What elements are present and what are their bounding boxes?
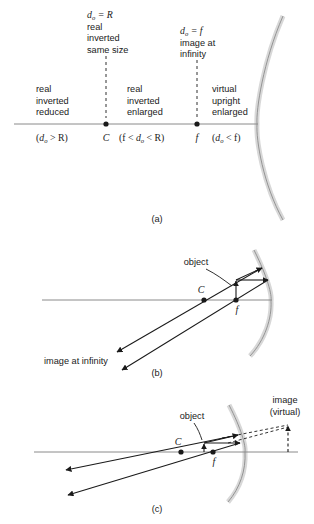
marker-center-of-curvature-a (103, 121, 108, 126)
callout-line-image-at-a: image at (180, 38, 216, 48)
region2-line-real: real (127, 84, 142, 94)
label-center-of-curvature-a: C (103, 132, 110, 143)
marker-focal-point-a (194, 121, 199, 126)
label-center-of-curvature-c: C (175, 436, 182, 447)
region3-line-upright: upright (212, 96, 241, 106)
panel-caption-b: (b) (151, 368, 162, 378)
panel-caption-c: (c) (152, 504, 163, 514)
region1-line-inverted: inverted (36, 96, 69, 106)
figure-background (0, 0, 314, 524)
callout-line-infinity-a: infinity (180, 49, 206, 59)
region2-line-inverted: inverted (127, 96, 160, 106)
marker-center-of-curvature-c (178, 449, 183, 454)
callout-condition-do-equals-r: do = R (87, 9, 113, 21)
label-center-of-curvature-b: C (198, 284, 205, 295)
region1-line-reduced: reduced (36, 107, 69, 117)
object-label-c: object (180, 411, 205, 421)
callout-line-real-a: real (87, 22, 102, 32)
region3-line-enlarged: enlarged (212, 107, 248, 117)
region1-line-real: real (36, 84, 51, 94)
marker-focal-point-b (233, 297, 238, 302)
callout-line-inverted-a: inverted (87, 33, 120, 43)
callout-line-same-size-a: same size (87, 45, 128, 55)
object-label-b: object (184, 257, 209, 267)
marker-focal-point-c (210, 449, 215, 454)
callout-condition-do-equals-f: do = f (180, 25, 204, 37)
region2-line-enlarged: enlarged (127, 107, 163, 117)
image-virtual-label-line1-c: image (272, 395, 297, 405)
panel-caption-a: (a) (151, 214, 162, 224)
region1-range-expression: (do > R) (36, 132, 68, 144)
image-virtual-label-line2-c: (virtual) (270, 407, 301, 417)
region3-line-virtual: virtual (212, 84, 237, 94)
image-at-infinity-label-b: image at infinity (44, 356, 108, 366)
mirror-ray-diagram-figure: C f do = R real inverted same size do = … (0, 0, 314, 524)
region3-range-expression: (do < f) (212, 132, 240, 144)
marker-center-of-curvature-b (201, 297, 206, 302)
